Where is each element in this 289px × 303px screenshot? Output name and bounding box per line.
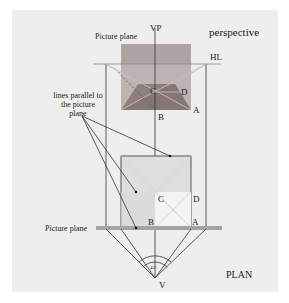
picture-plane-top-label: Picture plane <box>95 32 137 41</box>
note-line-2: the picture <box>61 100 95 109</box>
sight-line-left-inner <box>121 229 155 278</box>
plan-a-label: A <box>192 217 199 227</box>
persp-a-label: A <box>193 105 200 115</box>
vp-label: VP <box>150 23 162 33</box>
plan-d-label: D <box>193 194 200 204</box>
angle-label: 45° <box>150 265 157 270</box>
picture-plane-bottom-label: Picture plane <box>45 224 87 233</box>
leader-dot-1 <box>169 155 172 158</box>
sight-line-left-outer <box>106 229 155 278</box>
persp-d-label: D <box>181 87 188 97</box>
sight-line-right-outer <box>155 229 206 278</box>
picture-plane-upper <box>121 44 191 64</box>
leader-line-1 <box>82 116 170 156</box>
picture-plane-line <box>96 226 222 230</box>
plan-label: PLAN <box>226 269 252 280</box>
perspective-label: perspective <box>209 26 259 38</box>
persp-b-label: B <box>158 112 164 122</box>
leader-line-2 <box>82 116 136 192</box>
sight-line-right-inner <box>155 229 191 278</box>
note-line-1: lines parallel to <box>53 91 102 100</box>
leader-dot-2 <box>135 191 138 194</box>
note-line-3: plane <box>69 109 87 118</box>
persp-c-label: C <box>150 86 156 96</box>
v-label: V <box>159 280 166 290</box>
leader-dot-3 <box>135 227 138 230</box>
plan-c-label: C <box>158 194 164 204</box>
perspective-diagram: VP perspective Picture plane HL lines pa… <box>0 0 289 303</box>
plan-b-label: B <box>148 217 154 227</box>
hl-label: HL <box>210 52 222 62</box>
